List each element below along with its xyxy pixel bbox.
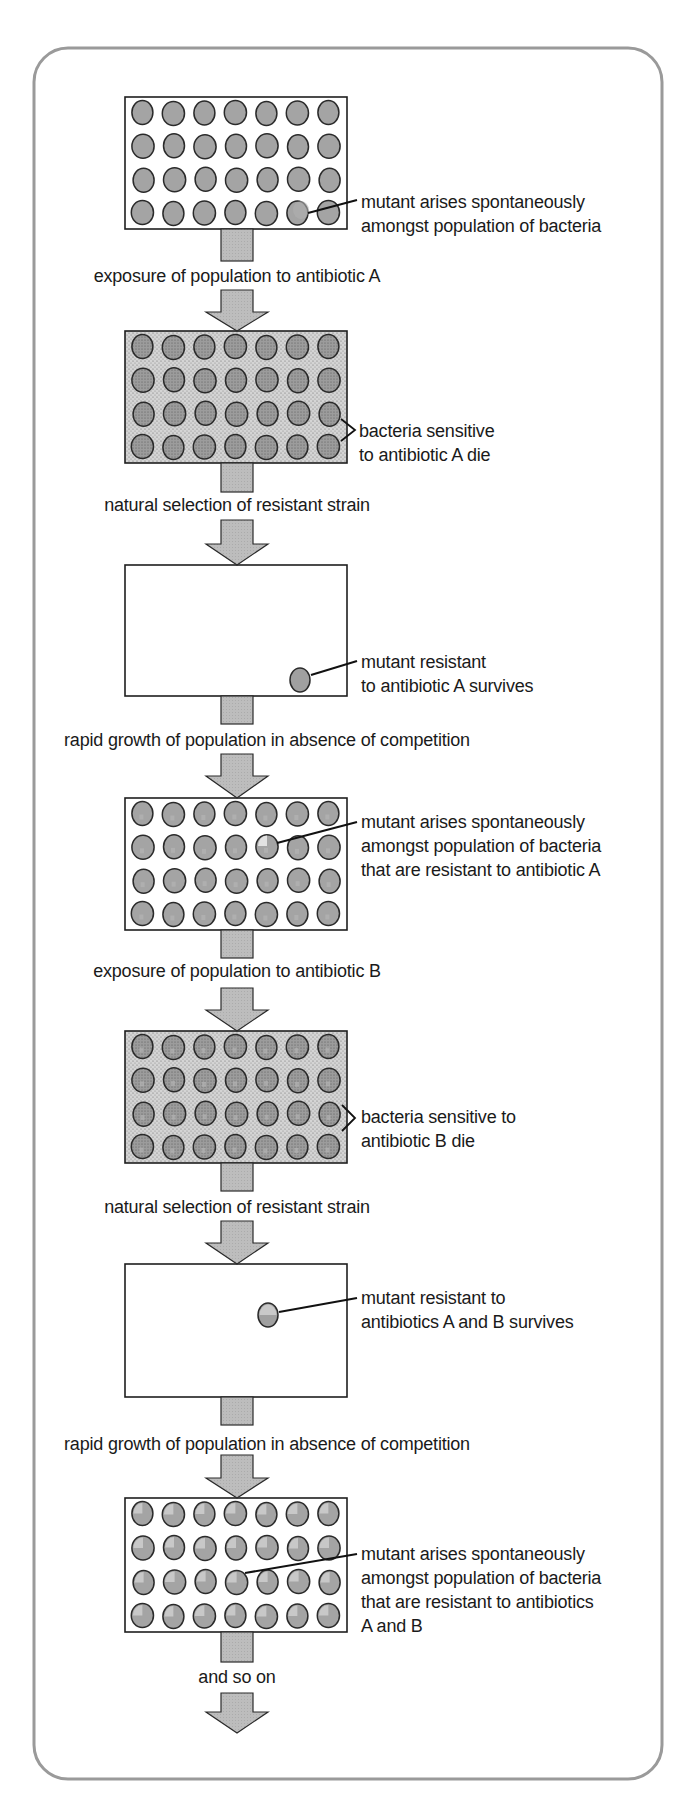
bacterium: [317, 435, 339, 459]
bacterium: [164, 134, 185, 158]
bacterium: [318, 1068, 340, 1092]
bacterium: [194, 335, 215, 359]
bacterium: [194, 802, 215, 826]
bacterium: [287, 902, 308, 926]
bacterium: [255, 436, 277, 460]
bacterium: [288, 1570, 310, 1594]
bacterium: [317, 1604, 339, 1628]
bacterium: [162, 1036, 184, 1060]
bacterium: [164, 1102, 186, 1126]
bacterium: [163, 1605, 184, 1629]
bacterium: [132, 802, 153, 826]
bacterium: [194, 135, 216, 159]
bacterium: [318, 134, 340, 158]
bacterium: [226, 869, 248, 893]
annotation-stage-3: mutant resistant to antibiotic A survive…: [361, 650, 533, 698]
bacterium: [164, 402, 186, 426]
surviving-mutant-bacterium: [290, 668, 310, 692]
bacterium: [132, 1035, 153, 1059]
transition-label-7: and so on: [137, 1665, 337, 1689]
bacterium: [131, 1604, 153, 1628]
bacterium: [164, 869, 186, 893]
bacterium: [164, 835, 185, 859]
flow-arrow-stem: [221, 1632, 253, 1662]
bacterium: [193, 1604, 215, 1628]
annotation-stage-1: mutant arises spontaneously amongst popu…: [361, 190, 601, 238]
bacterium: [256, 1036, 277, 1060]
bacterium: [163, 202, 184, 226]
bacterium: [317, 902, 339, 926]
bacterium: [257, 402, 278, 426]
bacterium: [286, 335, 308, 359]
bacterium: [225, 201, 246, 225]
surviving-mutant-bacterium: [258, 1303, 278, 1327]
bacterium: [194, 836, 216, 860]
transition-label-3: rapid growth of population in absence of…: [17, 728, 517, 752]
bacterium: [163, 1136, 184, 1160]
flow-arrow-stem: [221, 229, 253, 261]
bacterium: [256, 1503, 277, 1527]
bacterium: [132, 1536, 154, 1560]
bacterium: [288, 135, 309, 159]
bacterium: [226, 134, 247, 158]
bacterium: [256, 336, 277, 360]
bacterium: [318, 1536, 340, 1560]
flow-arrow-stem: [221, 1163, 253, 1191]
bacterium: [195, 1101, 216, 1125]
bacterium: [224, 1502, 246, 1526]
bacterium: [133, 1102, 154, 1126]
bacterium: [255, 1136, 277, 1160]
flow-arrow-head-icon: [206, 290, 268, 331]
bacterium: [257, 168, 278, 192]
bacterium: [226, 1571, 248, 1595]
bacterium: [133, 869, 154, 893]
bacterium: [318, 1035, 339, 1059]
population-box-5: [125, 1031, 347, 1163]
annotation-stage-7: mutant arises spontaneously amongst popu…: [361, 1542, 601, 1638]
bacterium: [286, 1035, 308, 1059]
bacterium: [319, 168, 340, 192]
transition-label-2: natural selection of resistant strain: [37, 493, 437, 517]
bacterium: [194, 101, 215, 125]
bacterium: [131, 902, 153, 926]
bacterium: [318, 1502, 339, 1526]
bacterium: [226, 1068, 247, 1092]
bacterium: [132, 835, 154, 859]
population-box-6: [125, 1264, 347, 1397]
bacterium: [224, 101, 246, 125]
transition-label-4: exposure of population to antibiotic B: [37, 959, 437, 983]
bacterium: [288, 1537, 309, 1561]
flow-arrow-stem: [221, 696, 253, 724]
bacterium: [317, 201, 339, 225]
bacterium: [132, 1068, 154, 1092]
bacterium: [194, 1537, 216, 1561]
bacterium: [288, 1101, 310, 1125]
bacterium: [131, 1135, 153, 1159]
flow-arrow-head-icon: [206, 754, 268, 798]
bacterium: [256, 102, 277, 126]
annotation-stage-5: bacteria sensitive to antibiotic B die: [361, 1105, 516, 1153]
bacterium: [226, 402, 248, 426]
bacterium: [287, 1604, 308, 1628]
bacterium: [318, 835, 340, 859]
bacterium: [164, 1068, 185, 1092]
bacterium: [226, 1102, 248, 1126]
bacterium: [288, 369, 309, 393]
population-box-7: [125, 1498, 347, 1632]
bacterium: [225, 902, 246, 926]
bacterium: [287, 1135, 308, 1159]
bacterium: [226, 835, 247, 859]
population-box-1: [125, 97, 347, 229]
bacterium: [132, 335, 153, 359]
flow-arrow-stem: [221, 930, 253, 958]
bacterium: [286, 1502, 308, 1526]
bacterium: [318, 335, 339, 359]
bacterium: [255, 903, 277, 927]
flow-arrow-head-icon: [206, 1455, 268, 1498]
bacterium: [256, 134, 278, 158]
bacterium: [224, 1035, 246, 1059]
flow-arrow-stem: [221, 1397, 253, 1425]
bacterium: [195, 868, 216, 892]
bacterium: [257, 1102, 278, 1126]
bacterium: [318, 802, 339, 826]
